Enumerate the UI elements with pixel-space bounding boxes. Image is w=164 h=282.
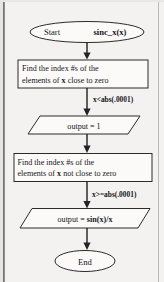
flowchart-page: Start sinc_x(x) Find the index #s of the… <box>0 0 164 282</box>
output-one-label: output = 1 <box>67 122 100 131</box>
process-near-zero-line2-b: close to zero <box>66 76 109 85</box>
output-sinc-expression: sin(x)/x <box>87 215 113 224</box>
process-not-near-zero-line1: Find the index #s of the <box>18 158 95 167</box>
arrowhead-process1-to-output1 <box>83 109 90 117</box>
process-near-zero-line2: elements of x close to zero <box>22 76 109 85</box>
arrowhead-output1-to-process2 <box>83 146 90 154</box>
output-sinc-label-plain: output = <box>58 215 87 224</box>
process-not-near-zero-line2: elements of x not close to zero <box>18 169 117 178</box>
process-not-near-zero-line2-b: not close to zero <box>61 169 116 178</box>
end-label: End <box>78 257 93 267</box>
process-near-zero-line2-a: elements of <box>22 76 62 85</box>
process-near-zero-line1: Find the index #s of the <box>22 64 99 73</box>
edge-label-not-near-zero: x>=abs(.0001) <box>92 190 137 199</box>
flowchart-canvas: Start sinc_x(x) Find the index #s of the… <box>0 0 164 282</box>
start-function-label: sinc_x(x) <box>94 27 127 37</box>
edge-label-near-zero: x<abs(.0001) <box>93 95 134 104</box>
start-label: Start <box>44 27 61 37</box>
arrowhead-start-to-process1 <box>83 53 90 60</box>
output-sinc-label: output = sin(x)/x <box>58 215 113 224</box>
arrowhead-output2-to-end <box>83 243 90 251</box>
arrowhead-process2-to-output2 <box>83 201 90 209</box>
process-not-near-zero-line2-a: elements of <box>18 169 58 178</box>
